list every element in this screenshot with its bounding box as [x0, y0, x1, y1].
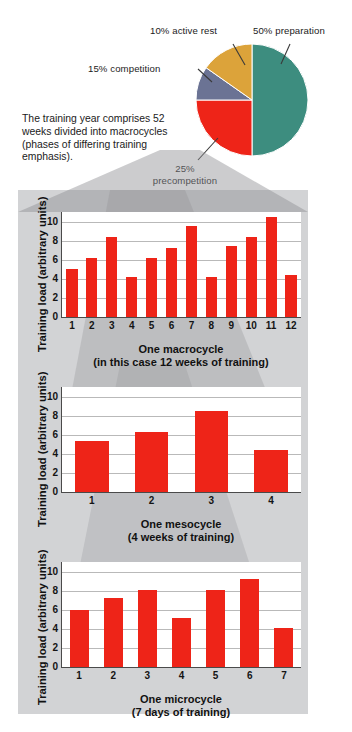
pie-slice-precompetition: [196, 100, 252, 156]
chart-mesocycle-plot: 02468101234: [61, 387, 301, 493]
bar-microcycle-1: [70, 610, 89, 667]
gridline: [62, 591, 301, 592]
gridline: [62, 435, 301, 436]
y-axis-tick-mesocycle: 4: [52, 449, 58, 459]
y-axis-tick-microcycle: 4: [52, 624, 58, 634]
x-axis-tick-mesocycle: 4: [268, 495, 274, 506]
bar-mesocycle-4: [254, 450, 287, 492]
chart-macrocycle: Training load (arbitrary units) 02468101…: [0, 190, 320, 360]
x-axis-tick-microcycle: 6: [247, 670, 253, 681]
pie-label-competition: 15% competition: [88, 63, 160, 74]
bar-mesocycle-2: [135, 432, 168, 492]
bar-macrocycle-5: [146, 258, 157, 317]
gridline: [62, 416, 301, 417]
pie-label-active-rest: 10% active rest: [150, 25, 217, 36]
y-axis-tick-microcycle: 8: [52, 586, 58, 596]
bar-macrocycle-1: [66, 269, 77, 317]
y-axis-tick-macrocycle: 4: [52, 274, 58, 284]
y-axis-tick-mesocycle: 10: [47, 392, 58, 402]
bar-microcycle-6: [240, 579, 259, 667]
x-axis-tick-microcycle: 1: [76, 670, 82, 681]
x-axis-tick-macrocycle: 5: [149, 320, 155, 331]
x-axis-tick-mesocycle: 2: [149, 495, 155, 506]
bar-microcycle-2: [104, 598, 123, 667]
y-axis-tick-microcycle: 2: [52, 643, 58, 653]
bar-macrocycle-4: [126, 277, 137, 317]
bar-macrocycle-2: [86, 258, 97, 317]
x-axis-tick-microcycle: 4: [179, 670, 185, 681]
bar-microcycle-5: [206, 590, 225, 667]
bar-macrocycle-9: [226, 246, 237, 317]
y-axis-tick-microcycle: 6: [52, 605, 58, 615]
y-axis-tick-mesocycle: 8: [52, 411, 58, 421]
pie-slice-preparation: [252, 44, 308, 156]
bar-mesocycle-3: [195, 411, 228, 492]
chart-microcycle: Training load (arbitrary units) 02468101…: [0, 540, 320, 715]
bar-macrocycle-11: [266, 217, 277, 317]
x-axis-tick-microcycle: 3: [145, 670, 151, 681]
pie-label-preparation: 50% preparation: [253, 25, 325, 36]
y-axis-tick-macrocycle: 6: [52, 255, 58, 265]
y-axis-tick-macrocycle: 10: [47, 217, 58, 227]
bar-macrocycle-10: [246, 237, 257, 317]
y-axis-tick-mesocycle: 2: [52, 468, 58, 478]
x-axis-tick-macrocycle: 1: [69, 320, 75, 331]
x-axis-tick-microcycle: 5: [213, 670, 219, 681]
bar-macrocycle-8: [206, 277, 217, 317]
x-axis-tick-macrocycle: 11: [266, 320, 277, 331]
x-axis-tick-macrocycle: 6: [169, 320, 175, 331]
x-axis-tick-mesocycle: 1: [89, 495, 95, 506]
bar-macrocycle-7: [186, 226, 197, 317]
x-axis-tick-macrocycle: 3: [109, 320, 115, 331]
x-axis-tick-mesocycle: 3: [209, 495, 215, 506]
bar-microcycle-7: [274, 628, 293, 667]
chart-mesocycle: Training load (arbitrary units) 02468101…: [0, 365, 320, 535]
y-axis-tick-macrocycle: 2: [52, 293, 58, 303]
x-axis-tick-macrocycle: 7: [189, 320, 195, 331]
bar-macrocycle-3: [106, 237, 117, 317]
bar-microcycle-3: [138, 590, 157, 667]
chart-microcycle-plot: 02468101234567: [61, 562, 301, 668]
pie-chart-section: The training year comprises 52 weeks div…: [0, 0, 352, 195]
y-axis-tick-mesocycle: 0: [52, 487, 58, 497]
bar-microcycle-4: [172, 618, 191, 667]
chart-microcycle-caption: One microcycle (7 days of training): [61, 693, 301, 719]
gridline: [62, 572, 301, 573]
pie-svg: [196, 44, 308, 156]
y-axis-tick-microcycle: 0: [52, 662, 58, 672]
x-axis-tick-macrocycle: 9: [229, 320, 235, 331]
y-axis-tick-mesocycle: 6: [52, 430, 58, 440]
training-year-pie-chart: [196, 44, 308, 156]
bar-macrocycle-12: [285, 275, 296, 317]
x-axis-tick-macrocycle: 10: [246, 320, 257, 331]
bar-mesocycle-1: [75, 441, 108, 492]
x-axis-tick-microcycle: 2: [110, 670, 116, 681]
y-axis-tick-macrocycle: 8: [52, 236, 58, 246]
chart-microcycle-title: One microcycle: [61, 693, 301, 706]
x-axis-tick-microcycle: 7: [281, 670, 287, 681]
chart-macrocycle-title: One macrocycle: [61, 343, 301, 356]
x-axis-tick-macrocycle: 4: [129, 320, 135, 331]
bar-macrocycle-6: [166, 248, 177, 317]
x-axis-tick-macrocycle: 2: [89, 320, 95, 331]
y-axis-tick-microcycle: 10: [47, 567, 58, 577]
gridline: [62, 610, 301, 611]
x-axis-tick-macrocycle: 8: [209, 320, 215, 331]
x-axis-tick-macrocycle: 12: [285, 320, 296, 331]
chart-microcycle-subtitle: (7 days of training): [61, 706, 301, 719]
chart-mesocycle-title: One mesocycle: [61, 518, 301, 531]
pie-label-precompetition: 25% precompetition: [146, 163, 224, 186]
y-axis-tick-macrocycle: 0: [52, 312, 58, 322]
intro-paragraph: The training year comprises 52 weeks div…: [22, 113, 172, 163]
gridline: [62, 397, 301, 398]
chart-macrocycle-plot: 0246810123456789101112: [61, 212, 301, 318]
